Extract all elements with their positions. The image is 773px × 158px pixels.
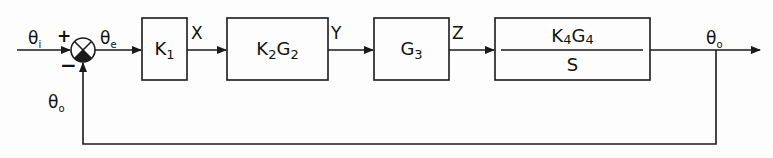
subscript: 4	[563, 32, 571, 47]
error-signal-label: θe	[100, 30, 117, 47]
subscript: 2	[290, 47, 298, 62]
block-k4g4-numerator: K4G4	[495, 27, 650, 45]
transfer-symbol: G	[276, 38, 290, 59]
block-k4g4-denominator: S	[495, 56, 650, 74]
theta-symbol: θ	[48, 92, 58, 112]
subscript: o	[58, 103, 64, 114]
subscript: 2	[268, 47, 276, 62]
block-k2g2-label: K2G2	[227, 40, 328, 58]
gain-symbol: K	[154, 38, 166, 59]
input-signal-label: θi	[28, 30, 41, 47]
minus-sign: −	[60, 55, 77, 75]
gain-symbol: K	[551, 25, 563, 46]
theta-symbol: θ	[28, 28, 38, 48]
x-signal-label: X	[191, 25, 203, 42]
theta-symbol: θ	[706, 28, 716, 48]
subscript: e	[110, 39, 116, 50]
subscript: o	[716, 39, 722, 50]
theta-symbol: θ	[100, 28, 110, 48]
plus-sign: +	[57, 28, 71, 45]
z-signal-label: Z	[452, 25, 464, 42]
gain-symbol: K	[256, 38, 268, 59]
block-diagram: θi + − θe X Y Z θo θo K1 K2G2 G3 K4G4 S	[0, 0, 773, 158]
subscript: 4	[585, 32, 593, 47]
block-k1-label: K1	[142, 40, 187, 58]
subscript: 3	[414, 47, 422, 62]
subscript: i	[38, 39, 41, 50]
y-signal-label: Y	[331, 25, 341, 42]
diagram-lines	[0, 0, 773, 158]
subscript: 1	[166, 47, 174, 62]
transfer-symbol: G	[571, 25, 585, 46]
feedback-signal-label: θo	[48, 94, 65, 111]
block-g3-label: G3	[374, 40, 449, 58]
minus-quadrant-fill	[75, 50, 92, 62]
transfer-symbol: G	[400, 38, 414, 59]
output-signal-label: θo	[706, 30, 723, 47]
